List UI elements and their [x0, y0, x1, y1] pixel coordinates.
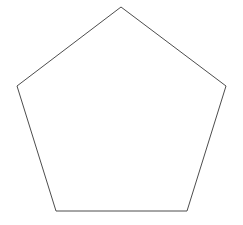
drawing-canvas — [0, 0, 243, 225]
pentagon-shape — [17, 7, 226, 211]
pentagon-diagram — [0, 0, 243, 225]
